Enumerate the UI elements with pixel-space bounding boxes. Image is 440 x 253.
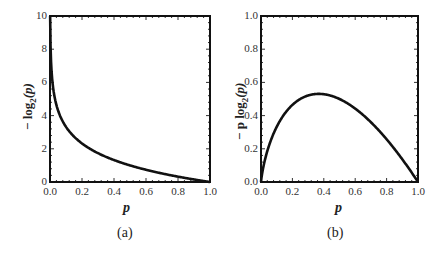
x-tick-label: 0.8: [372, 186, 402, 197]
panel-b: − p log2(p) 0.00.20.40.60.81.0 0.00.20.4…: [0, 0, 440, 253]
caption-b: (b): [327, 225, 343, 241]
x-tick-label: 0.6: [340, 186, 370, 197]
x-tick-label: 1.0: [403, 186, 433, 197]
y-tick-label: 0.2: [228, 143, 258, 154]
x-tick-label: 0.2: [277, 186, 307, 197]
y-tick-label: 0.4: [228, 110, 258, 121]
plot-frame-b: [260, 15, 419, 183]
y-tick-label: 1.0: [228, 10, 258, 21]
y-tick-label: 0.8: [228, 43, 258, 54]
x-tick-label: 0.4: [309, 186, 339, 197]
x-tick-label: 0.0: [246, 186, 276, 197]
x-axis-label-b: p: [335, 200, 342, 216]
y-tick-label: 0.6: [228, 76, 258, 87]
